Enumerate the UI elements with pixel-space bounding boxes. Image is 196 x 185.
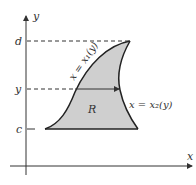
tick-label-d: d [15, 35, 22, 48]
tick-label-y: y [14, 83, 22, 96]
left-curve-label: x = x₁(y) [67, 40, 100, 82]
y-axis-label: y [32, 10, 40, 23]
right-curve-label: x = x₂(y) [129, 99, 173, 110]
label-layer: y x d y c R x = x₂(y) x = x₁(y) [0, 0, 196, 185]
x-axis-label: x [187, 150, 194, 163]
region-label: R [87, 103, 96, 116]
tick-label-c: c [16, 123, 22, 136]
